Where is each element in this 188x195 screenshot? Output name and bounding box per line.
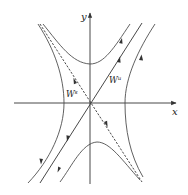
stable-manifold-label: Ws — [66, 89, 78, 100]
phase-portrait: y x Ws Wu — [0, 0, 188, 195]
arrow-icon — [117, 57, 121, 63]
trajectory-top — [43, 24, 130, 64]
x-axis-label: x — [172, 106, 178, 117]
arrow-icon — [58, 167, 62, 173]
trajectory-right — [125, 24, 155, 177]
trajectory-bottom — [60, 142, 140, 182]
unstable-manifold-label: Wu — [109, 75, 122, 86]
arrow-icon — [139, 55, 143, 61]
arrow-icon — [66, 135, 70, 141]
trajectory-left — [28, 24, 64, 183]
y-axis-label: y — [80, 11, 87, 22]
arrow-icon — [39, 159, 43, 165]
